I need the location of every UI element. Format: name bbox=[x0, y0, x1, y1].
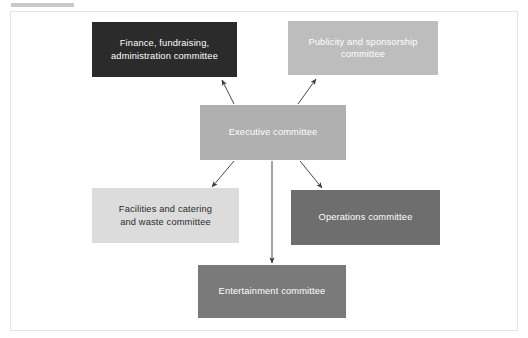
node-executive-label: Executive committee bbox=[229, 126, 318, 138]
node-executive-committee[interactable]: Executive committee bbox=[200, 105, 346, 160]
node-facilities-committee[interactable]: Facilities and catering and waste commit… bbox=[92, 188, 239, 243]
figure-canvas: Finance, fundraising, administration com… bbox=[0, 0, 528, 338]
node-entertainment-committee[interactable]: Entertainment committee bbox=[198, 265, 346, 318]
header-rule bbox=[11, 3, 74, 7]
node-publicity-committee[interactable]: Publicity and sponsorship committee bbox=[288, 21, 438, 75]
node-operations-label: Operations committee bbox=[319, 211, 413, 223]
node-finance-committee[interactable]: Finance, fundraising, administration com… bbox=[92, 22, 237, 77]
node-facilities-label: Facilities and catering and waste commit… bbox=[119, 203, 212, 228]
node-entertainment-label: Entertainment committee bbox=[219, 285, 326, 297]
node-finance-label: Finance, fundraising, administration com… bbox=[111, 37, 218, 62]
node-publicity-label: Publicity and sponsorship committee bbox=[308, 36, 417, 61]
node-operations-committee[interactable]: Operations committee bbox=[291, 190, 440, 245]
